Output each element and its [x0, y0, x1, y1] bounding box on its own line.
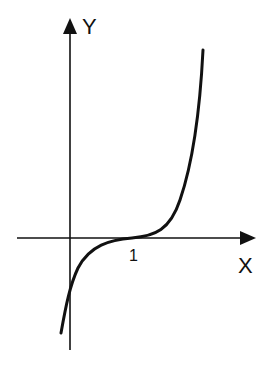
x-tick-label-1: 1 [129, 248, 138, 264]
graph-canvas [0, 0, 269, 368]
y-axis [63, 18, 77, 350]
x-axis-arrow-icon [240, 231, 256, 245]
y-axis-arrow-icon [63, 18, 77, 34]
x-axis-label: X [238, 255, 253, 277]
y-axis-label: Y [82, 16, 97, 38]
cubic-curve [61, 50, 203, 333]
